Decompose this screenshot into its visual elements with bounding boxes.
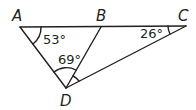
angle-arc-c [168,26,170,34]
point-label-b: B [96,7,106,25]
point-label-d: D [60,92,72,110]
angle-arc-d-bdc [73,76,79,81]
angle-label-d: 69° [58,52,81,67]
angle-arc-a [33,27,41,44]
point-label-c: C [178,7,189,25]
angle-label-a: 53° [43,32,66,47]
triangle-diagram: A B C D 53° 69° 26° [0,0,196,110]
angle-label-c: 26° [140,26,163,41]
angle-arc-d-adb [54,68,76,72]
point-label-a: A [11,7,22,25]
